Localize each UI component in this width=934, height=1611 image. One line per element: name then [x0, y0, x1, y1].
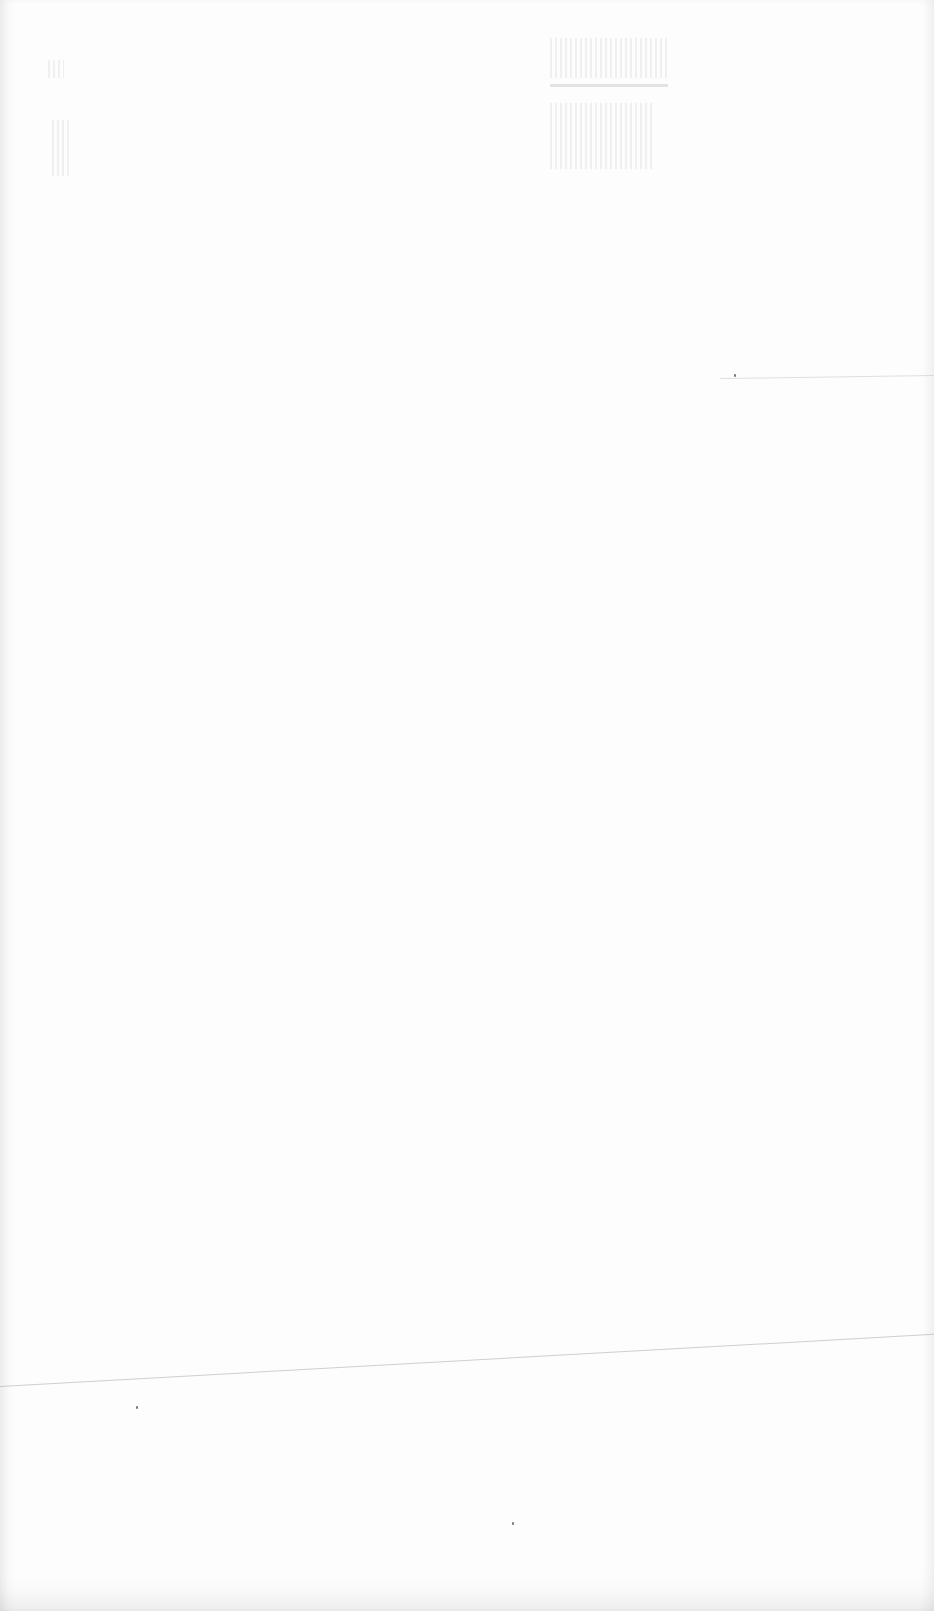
bleed-through-rule [550, 84, 668, 87]
bleed-through-mark [52, 120, 72, 176]
bleed-through-mark [48, 60, 64, 78]
dust-speck [512, 1522, 514, 1525]
dust-speck [734, 374, 736, 377]
dust-speck [136, 1406, 138, 1409]
bleed-through-mark [550, 103, 654, 169]
scanned-page: Faint, illegible bleed-through marks fro… [0, 0, 934, 1611]
fold-crease [0, 1334, 934, 1387]
crease-line [720, 375, 934, 379]
bleed-through-mark [550, 38, 668, 78]
